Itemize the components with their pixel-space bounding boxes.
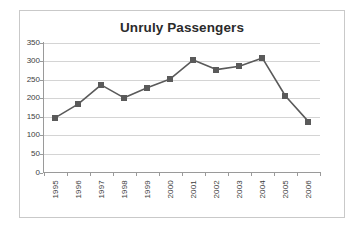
x-axis-tick-mark bbox=[297, 173, 298, 176]
data-point-marker bbox=[259, 55, 265, 61]
data-point-marker bbox=[190, 57, 196, 63]
y-axis-tick-label: 150 bbox=[16, 113, 40, 121]
x-axis-tick-mark bbox=[90, 173, 91, 176]
y-axis-tick-label: 350 bbox=[16, 39, 40, 47]
y-axis-tick-mark bbox=[40, 80, 43, 81]
x-axis-tick-mark bbox=[159, 173, 160, 176]
x-axis-tick-mark bbox=[274, 173, 275, 176]
data-point-marker bbox=[305, 119, 311, 125]
x-axis-tick-label: 2000 bbox=[166, 180, 175, 199]
data-point-marker bbox=[52, 115, 58, 121]
x-axis-tick-mark bbox=[136, 173, 137, 176]
gridline bbox=[44, 117, 321, 118]
x-axis-tick-mark bbox=[44, 173, 45, 176]
gridline bbox=[44, 98, 321, 99]
y-axis-tick-mark bbox=[40, 117, 43, 118]
y-axis-tick-label: 50 bbox=[16, 150, 40, 158]
x-axis-tick-mark bbox=[182, 173, 183, 176]
y-axis-tick-mark bbox=[40, 43, 43, 44]
x-axis-tick-mark bbox=[205, 173, 206, 176]
x-axis-tick-label: 2006 bbox=[304, 180, 313, 199]
gridline bbox=[44, 154, 321, 155]
y-axis-tick-mark bbox=[40, 173, 43, 174]
y-axis-tick-label: 0 bbox=[16, 169, 40, 177]
x-axis-tick-mark bbox=[113, 173, 114, 176]
data-point-marker bbox=[98, 82, 104, 88]
data-point-marker bbox=[213, 67, 219, 73]
data-point-marker bbox=[282, 93, 288, 99]
y-axis-tick-mark bbox=[40, 61, 43, 62]
chart-title: Unruly Passengers bbox=[20, 20, 344, 35]
y-axis-tick-mark bbox=[40, 135, 43, 136]
chart-frame: Unruly Passengers bbox=[19, 10, 345, 218]
x-axis-tick-label: 1999 bbox=[143, 180, 152, 199]
gridline bbox=[44, 80, 321, 81]
x-axis-tick-mark bbox=[251, 173, 252, 176]
x-axis-tick-label: 1997 bbox=[97, 180, 106, 199]
x-axis-tick-label: 2002 bbox=[212, 180, 221, 199]
data-point-marker bbox=[167, 76, 173, 82]
x-axis-tick-label: 1996 bbox=[74, 180, 83, 199]
x-axis-tick-label: 1995 bbox=[51, 180, 60, 199]
y-axis-labels: 050100150200250300350 bbox=[13, 0, 40, 232]
y-axis-tick-label: 250 bbox=[16, 76, 40, 84]
data-point-marker bbox=[144, 85, 150, 91]
x-axis-tick-label: 2004 bbox=[258, 180, 267, 199]
data-point-marker bbox=[121, 95, 127, 101]
x-axis-tick-mark bbox=[228, 173, 229, 176]
x-axis-tick-label: 2005 bbox=[281, 180, 290, 199]
data-point-marker bbox=[236, 63, 242, 69]
y-axis-tick-mark bbox=[40, 98, 43, 99]
y-axis-tick-label: 300 bbox=[16, 57, 40, 65]
gridline bbox=[44, 135, 321, 136]
x-axis-tick-mark bbox=[320, 173, 321, 176]
x-axis-tick-mark bbox=[67, 173, 68, 176]
y-axis-tick-mark bbox=[40, 154, 43, 155]
y-axis-tick-label: 200 bbox=[16, 94, 40, 102]
y-axis-tick-label: 100 bbox=[16, 131, 40, 139]
x-axis-tick-label: 1998 bbox=[120, 180, 129, 199]
gridline bbox=[44, 61, 321, 62]
gridline bbox=[44, 43, 321, 44]
x-axis-tick-label: 2001 bbox=[189, 180, 198, 199]
data-point-marker bbox=[75, 101, 81, 107]
x-axis-tick-label: 2003 bbox=[235, 180, 244, 199]
